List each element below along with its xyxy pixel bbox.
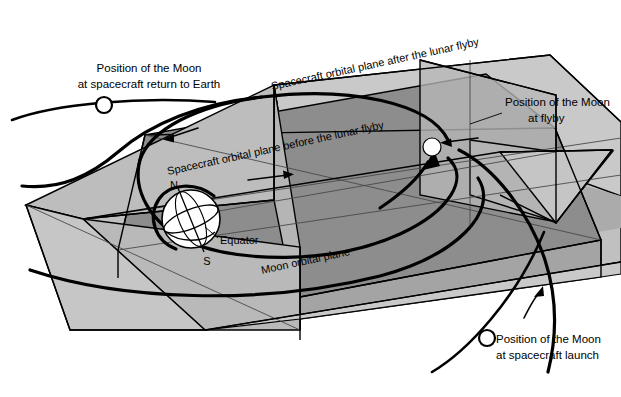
moon-dot-flyby [423,138,441,156]
label-moon-flyby-line2: at flyby [528,112,565,124]
label-globe-north: N [170,179,178,191]
orbital-geometry-svg: Position of the Moon at spacecraft retur… [0,0,621,397]
diagram-canvas: Position of the Moon at spacecraft retur… [0,0,621,397]
moon-dot-launch [479,330,495,346]
label-moon-return-line2: at spacecraft return to Earth [78,78,221,90]
label-moon-return-line1: Position of the Moon [97,62,202,74]
label-moon-launch-line2: at spacecraft launch [496,349,599,361]
label-globe-equator: Equator [220,234,259,246]
direction-arrow-launch [524,286,544,318]
label-moon-launch-line1: Position of the Moon [496,333,601,345]
label-globe-south: S [203,255,210,267]
moon-dot-return [96,97,112,113]
label-moon-flyby-line1: Position of the Moon [505,96,610,108]
